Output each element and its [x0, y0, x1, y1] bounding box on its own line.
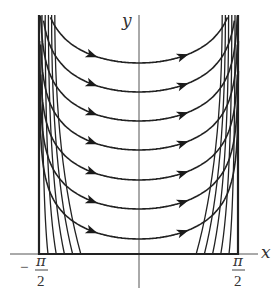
phase-portrait-diagram: y x − π 2 π 2	[0, 0, 276, 300]
wall-streamline	[48, 15, 64, 254]
tick-numerator: π	[232, 252, 244, 270]
direction-arrow-icon	[176, 137, 190, 149]
tick-denominator: 2	[234, 273, 242, 289]
direction-arrow-icon	[85, 107, 99, 120]
direction-arrow-icon	[85, 78, 99, 91]
direction-arrow-icon	[176, 167, 190, 179]
direction-arrow-icon	[176, 79, 190, 91]
direction-arrow-icon	[176, 108, 190, 120]
direction-arrow-icon	[85, 136, 99, 149]
tick-sign: −	[20, 259, 28, 275]
tick-denominator: 2	[37, 273, 45, 289]
y-axis-label: y	[121, 10, 132, 30]
flow-arrows	[85, 49, 190, 239]
direction-arrow-icon	[85, 49, 99, 62]
direction-arrow-icon	[176, 196, 190, 208]
direction-arrow-icon	[85, 195, 99, 208]
direction-arrow-icon	[85, 225, 99, 238]
x-axis-label: x	[261, 242, 271, 262]
direction-arrow-icon	[176, 226, 190, 238]
tick-label-pi-over-2: π 2	[232, 252, 245, 289]
tick-label-neg-pi-over-2: − π 2	[20, 252, 48, 289]
direction-arrow-icon	[176, 50, 190, 62]
direction-arrow-icon	[85, 166, 99, 179]
tick-numerator: π	[35, 252, 47, 270]
